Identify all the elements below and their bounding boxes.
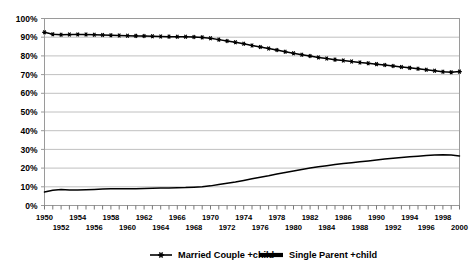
- x-tick-label: 1950: [36, 213, 53, 222]
- x-tick-label: 1976: [252, 223, 269, 232]
- x-tick-label: 1960: [119, 223, 136, 232]
- x-tick-label: 1962: [136, 213, 153, 222]
- x-tick-label: 1982: [302, 213, 319, 222]
- x-tick-label: 1966: [169, 213, 186, 222]
- x-tick-label: 1974: [235, 213, 253, 222]
- x-tick-label: 1970: [202, 213, 219, 222]
- y-tick-label: 20%: [20, 163, 37, 173]
- x-tick-label: 1972: [219, 223, 236, 232]
- x-tick-label: 1952: [53, 223, 70, 232]
- legend-label-single: Single Parent +child: [289, 250, 377, 260]
- x-tick-label: 1986: [335, 213, 352, 222]
- x-tick-marks: [45, 206, 460, 210]
- legend-star-icon: [158, 252, 164, 257]
- y-tick-label: 0%: [25, 201, 38, 211]
- x-tick-label: 1984: [318, 223, 336, 232]
- x-axis-labels: 1950195419581962196619701974197819821986…: [36, 213, 468, 232]
- x-tick-label: 1964: [152, 223, 170, 232]
- x-tick-label: 1988: [351, 223, 368, 232]
- y-tick-label: 10%: [20, 182, 37, 192]
- x-tick-label: 1968: [185, 223, 202, 232]
- x-tick-label: 1994: [401, 213, 419, 222]
- y-tick-label: 90%: [20, 32, 37, 42]
- y-tick-label: 70%: [20, 70, 37, 80]
- x-tick-label: 1978: [268, 213, 285, 222]
- y-tick-label: 30%: [20, 145, 37, 155]
- chart-container: 100%90%80%70%60%50%40%30%20%10%0%1950195…: [0, 0, 473, 272]
- y-axis-labels: 100%90%80%70%60%50%40%30%20%10%0%: [16, 14, 45, 211]
- line-chart: 100%90%80%70%60%50%40%30%20%10%0%1950195…: [0, 0, 473, 272]
- y-tick-label: 60%: [20, 88, 37, 98]
- legend: Married Couple +childSingle Parent +chil…: [150, 250, 377, 260]
- x-tick-label: 1990: [368, 213, 385, 222]
- x-tick-label: 1954: [69, 213, 87, 222]
- x-tick-label: 1992: [385, 223, 402, 232]
- y-tick-label: 100%: [16, 14, 38, 24]
- x-tick-label: 2000: [451, 223, 468, 232]
- x-tick-label: 1980: [285, 223, 302, 232]
- y-tick-label: 50%: [20, 107, 37, 117]
- x-tick-label: 1998: [434, 213, 451, 222]
- x-tick-label: 1956: [86, 223, 103, 232]
- x-tick-label: 1996: [418, 223, 435, 232]
- y-tick-label: 40%: [20, 126, 37, 136]
- y-tick-label: 80%: [20, 51, 37, 61]
- x-tick-label: 1958: [102, 213, 119, 222]
